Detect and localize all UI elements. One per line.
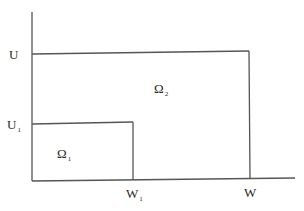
label-W1-base: W (126, 186, 138, 201)
label-omega2-base: Ω (154, 81, 164, 96)
label-W-base: W (244, 185, 256, 200)
label-U1: U1 (7, 118, 21, 134)
omega1-top-edge (32, 122, 133, 124)
label-U: U (9, 48, 19, 64)
x-axis (32, 178, 295, 181)
label-U-base: U (9, 47, 18, 62)
label-W1: W1 (126, 187, 143, 203)
label-U1-base: U (7, 117, 16, 132)
omega2-right-edge (249, 51, 250, 179)
label-omega1: Ω1 (57, 147, 71, 163)
label-omega2-sub: 2 (165, 90, 169, 98)
label-omega1-base: Ω (57, 146, 67, 161)
omega2-top-edge (32, 51, 249, 54)
label-U1-sub: 1 (17, 126, 21, 134)
label-omega2: Ω2 (154, 82, 168, 98)
diagram-canvas (0, 0, 304, 211)
label-omega1-sub: 1 (68, 155, 72, 163)
label-W: W (244, 186, 257, 202)
label-W1-sub: 1 (139, 195, 143, 203)
